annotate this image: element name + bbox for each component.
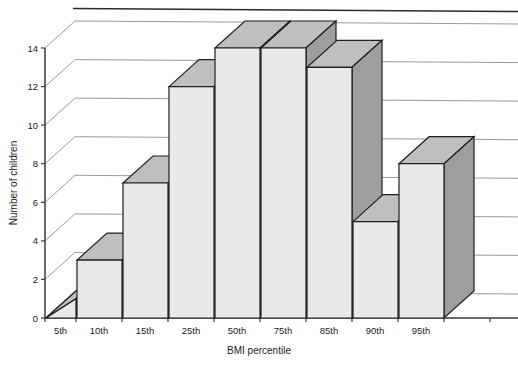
x-tick-label: 90th <box>366 325 385 336</box>
y-axis-tick-labels: 0 2 4 6 8 10 12 14 <box>27 43 38 324</box>
y-tick-label: 10 <box>27 120 38 131</box>
chart-container: 0 2 4 6 8 10 12 14 Number of children <box>0 0 518 371</box>
x-tick-label: 85th <box>320 325 339 336</box>
x-tick-label: 75th <box>274 325 293 336</box>
y-tick-label: 6 <box>33 197 38 208</box>
bar-95th[interactable] <box>399 137 474 318</box>
y-tick-label: 8 <box>33 158 38 169</box>
y-tick-label: 0 <box>33 313 38 324</box>
y-tick-label: 2 <box>33 274 38 285</box>
bar-chart-svg: 0 2 4 6 8 10 12 14 Number of children <box>0 0 518 371</box>
x-tick-label: 10th <box>90 325 109 336</box>
y-axis-title: Number of children <box>8 141 19 225</box>
y-tick-label: 14 <box>27 43 38 54</box>
x-tick-label: 5th <box>54 325 67 336</box>
y-tick-label: 12 <box>27 81 38 92</box>
x-tick-label: 15th <box>136 325 155 336</box>
y-tick-label: 4 <box>33 235 38 246</box>
x-axis-tick-labels: 5th 10th 15th 25th 50th 75th 85th 90th 9… <box>54 325 430 336</box>
x-tick-label: 50th <box>228 325 247 336</box>
x-axis-title: BMI percentile <box>227 345 291 356</box>
x-tick-label: 95th <box>412 325 431 336</box>
chart-top-border <box>73 9 518 12</box>
x-tick-label: 25th <box>182 325 201 336</box>
bars-group <box>46 21 474 318</box>
